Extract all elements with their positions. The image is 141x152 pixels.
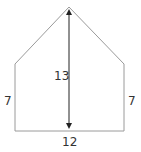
right-side-label: 7 [128,94,136,108]
left-side-label: 7 [4,94,12,108]
height-label: 13 [54,69,69,83]
base-label: 12 [62,135,77,149]
pentagon-diagram: 13 7 7 12 [0,0,141,152]
